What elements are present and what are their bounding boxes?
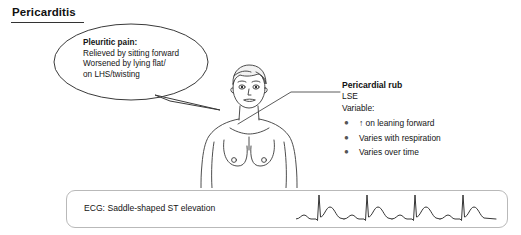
- list-item: ● Varies with respiration: [342, 131, 518, 146]
- pleuritic-pain-line-1: Relieved by sitting forward: [83, 49, 205, 60]
- pericarditis-diagram: Pericarditis Pleuritic pain: Relieved by…: [0, 0, 521, 235]
- pericardial-rub-annotation: Pericardial rub LSE Variable: ● ↑ on lea…: [342, 80, 518, 160]
- pericardial-rub-variable-label: Variable:: [342, 103, 518, 115]
- pericardial-rub-feature-list: ● ↑ on leaning forward ● Varies with res…: [342, 116, 518, 160]
- pericardial-rub-location: LSE: [342, 91, 518, 103]
- list-item-label: ↑ on leaning forward: [359, 118, 434, 128]
- list-item-label: Varies over time: [359, 147, 419, 157]
- list-item-label: Varies with respiration: [359, 133, 441, 143]
- page-title: Pericarditis: [12, 6, 76, 18]
- ecg-label: ECG: Saddle-shaped ST elevation: [84, 203, 215, 213]
- list-item: ● Varies over time: [342, 145, 518, 160]
- pleuritic-pain-heading: Pleuritic pain:: [83, 38, 205, 49]
- pleuritic-pain-line-3: on LHS/twisting: [83, 70, 205, 81]
- list-item: ● ↑ on leaning forward: [342, 116, 518, 131]
- pericardial-rub-leader-line: [236, 84, 346, 126]
- speech-bubble-text: Pleuritic pain: Relieved by sitting forw…: [83, 38, 205, 80]
- bullet-icon: ●: [344, 116, 349, 131]
- bullet-icon: ●: [344, 145, 349, 160]
- bullet-icon: ●: [344, 131, 349, 146]
- pleuritic-pain-line-2: Worsened by lying flat/: [83, 59, 205, 70]
- ecg-waveform-trace: [296, 193, 500, 225]
- pericardial-rub-title: Pericardial rub: [342, 80, 518, 91]
